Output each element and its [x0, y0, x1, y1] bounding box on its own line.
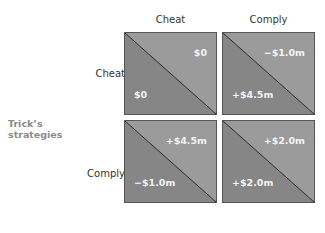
cell-background — [125, 121, 216, 202]
cell-background — [223, 33, 314, 114]
cell-background — [223, 121, 314, 202]
column-header-cheat: Cheat — [124, 14, 217, 25]
payoff-cell-comply-cheat: +$4.5m −$1.0m — [124, 120, 217, 203]
row-axis-label-line2: strategies — [8, 129, 62, 140]
payoff-upper: −$1.0m — [264, 47, 305, 58]
payoff-upper: +$2.0m — [264, 135, 305, 146]
payoff-lower: +$4.5m — [232, 89, 273, 100]
column-header-comply: Comply — [222, 14, 315, 25]
payoff-cell-comply-comply: +$2.0m +$2.0m — [222, 120, 315, 203]
cell-background — [125, 33, 216, 114]
payoff-lower: −$1.0m — [134, 177, 175, 188]
row-axis-label-line1: Trick’s — [8, 118, 62, 129]
row-header-comply: Comply — [87, 168, 125, 179]
row-axis-label: Trick’s strategies — [8, 118, 62, 140]
row-header-cheat: Cheat — [95, 68, 125, 79]
payoff-cell-cheat-cheat: $0 $0 — [124, 32, 217, 115]
payoff-cell-cheat-comply: −$1.0m +$4.5m — [222, 32, 315, 115]
payoff-upper: +$4.5m — [166, 135, 207, 146]
payoff-lower: +$2.0m — [232, 177, 273, 188]
payoff-lower: $0 — [134, 89, 147, 100]
payoff-upper: $0 — [194, 47, 207, 58]
